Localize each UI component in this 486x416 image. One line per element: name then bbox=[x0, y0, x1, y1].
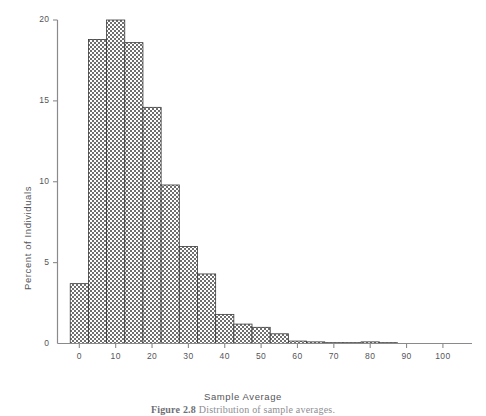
x-tick-label: 0 bbox=[59, 351, 99, 361]
histogram-bar bbox=[179, 246, 197, 343]
y-axis-title: Percent of Individuals bbox=[22, 186, 33, 290]
caption-text: Distribution of sample averages. bbox=[199, 404, 335, 415]
histogram-bar bbox=[252, 327, 270, 343]
histogram-bar bbox=[197, 274, 215, 344]
x-tick-label: 10 bbox=[96, 351, 136, 361]
histogram-bar bbox=[143, 107, 161, 343]
histogram-bar bbox=[270, 334, 288, 344]
y-tick-label: 20 bbox=[12, 14, 50, 24]
x-tick-label: 100 bbox=[423, 351, 463, 361]
x-tick-label: 50 bbox=[241, 351, 281, 361]
bars-layer bbox=[70, 20, 397, 344]
histogram-bar bbox=[161, 185, 179, 344]
histogram-bar bbox=[216, 314, 234, 343]
x-tick-label: 90 bbox=[387, 351, 427, 361]
x-tick-label: 70 bbox=[314, 351, 354, 361]
histogram-bar bbox=[125, 43, 143, 344]
figure-caption: Figure 2.8 Distribution of sample averag… bbox=[0, 404, 486, 415]
x-axis-title: Sample Average bbox=[0, 391, 486, 402]
figure-container: Percent of Individuals Sample Average 01… bbox=[0, 0, 486, 416]
x-tick-label: 40 bbox=[205, 351, 245, 361]
x-tick-label: 80 bbox=[350, 351, 390, 361]
x-tick-label: 30 bbox=[168, 351, 208, 361]
caption-number: Figure 2.8 bbox=[151, 404, 196, 415]
x-tick-label: 20 bbox=[132, 351, 172, 361]
y-tick-label: 15 bbox=[12, 95, 50, 105]
histogram-bar bbox=[70, 284, 88, 344]
histogram-bar bbox=[234, 324, 252, 343]
y-tick-label: 10 bbox=[12, 176, 50, 186]
y-tick-label: 0 bbox=[12, 338, 50, 348]
x-tick-label: 60 bbox=[277, 351, 317, 361]
y-tick-label: 5 bbox=[12, 257, 50, 267]
histogram-bar bbox=[107, 20, 125, 344]
histogram-bar bbox=[88, 39, 106, 343]
